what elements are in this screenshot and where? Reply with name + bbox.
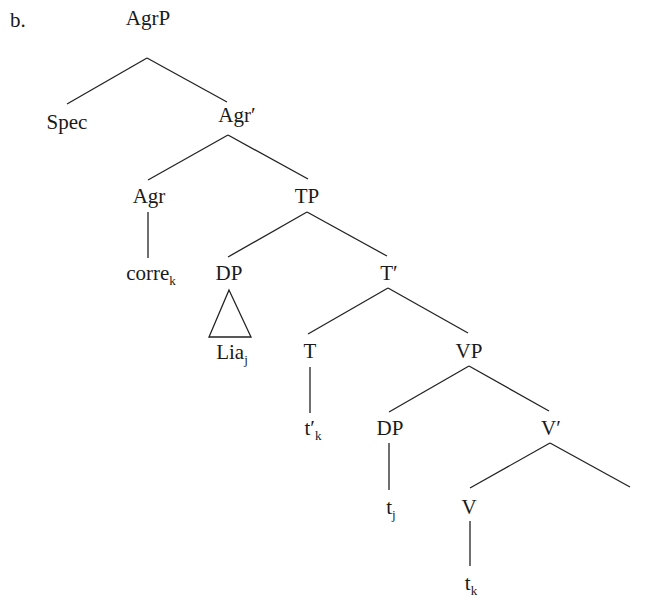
- leaf-lia: Liaj: [216, 342, 248, 363]
- leaf-corre-text: corre: [126, 261, 169, 285]
- leaf-t-prime-text: t′: [305, 416, 315, 440]
- syntax-tree: b. AgrP Spec Agr′ Agr TP correk DP T′ Li…: [0, 0, 649, 608]
- leaf-corre-index: k: [169, 273, 176, 288]
- branch-tp-tbar: [307, 212, 387, 256]
- node-tp: TP: [295, 186, 320, 207]
- leaf-t-k-index: k: [471, 583, 478, 598]
- branch-vp-vbar: [469, 366, 549, 411]
- node-t-bar: T′: [380, 263, 397, 284]
- example-label: b.: [10, 10, 26, 31]
- branch-vbar-v: [470, 443, 550, 488]
- node-dp-spec-vp: DP: [377, 418, 404, 439]
- leaf-t-prime-k: t′k: [305, 418, 322, 439]
- leaf-corre: correk: [126, 263, 176, 284]
- branch-vbar-empty: [550, 443, 630, 487]
- leaf-t-j: tj: [386, 497, 395, 518]
- dp-triangle: [209, 290, 251, 337]
- branch-agrbar-tp: [228, 135, 308, 179]
- branch-vp-dp: [389, 366, 469, 412]
- node-dp-subject: DP: [216, 263, 243, 284]
- node-agr: Agr: [133, 186, 166, 207]
- node-t: T: [304, 341, 317, 362]
- tree-branches: [0, 0, 649, 608]
- branch-tbar-t: [308, 288, 388, 334]
- node-spec: Spec: [47, 112, 88, 133]
- branch-agrp-agrbar: [147, 58, 227, 102]
- leaf-lia-index: j: [244, 352, 248, 367]
- leaf-lia-text: Lia: [216, 340, 244, 364]
- node-agr-bar: Agr′: [218, 105, 255, 126]
- leaf-t-j-index: j: [392, 507, 396, 522]
- branch-agrp-spec: [67, 58, 147, 104]
- leaf-t-prime-index: k: [315, 428, 322, 443]
- branch-agrbar-agr: [148, 135, 228, 180]
- node-v: V: [461, 497, 476, 518]
- node-vp: VP: [456, 341, 483, 362]
- node-v-bar: V′: [541, 418, 561, 439]
- leaf-t-k: tk: [465, 573, 477, 594]
- node-agrp: AgrP: [126, 8, 170, 29]
- branch-tbar-vp: [388, 288, 468, 333]
- branch-tp-dp: [228, 212, 307, 257]
